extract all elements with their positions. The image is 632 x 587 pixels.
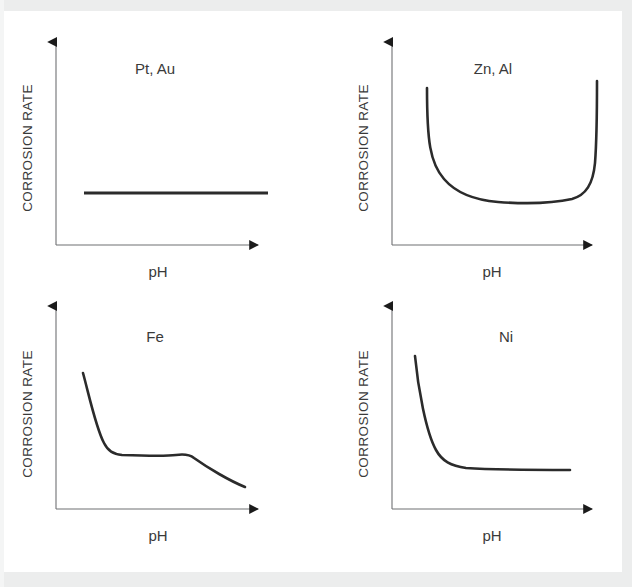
y-axis-label-pt-au: CORROSION RATE [20,84,35,212]
panel-title-fe: Fe [146,328,164,345]
x-axis-label-fe: pH [148,527,167,544]
curve-fe [83,373,245,487]
chart-panel-fe: Fe CORROSION RATE pH [0,292,316,572]
chart-grid: Pt, Au CORROSION RATE pH [0,11,632,572]
chart-svg-pt-au: Pt, Au CORROSION RATE pH [0,11,316,291]
x-axis-label-pt-au: pH [148,263,167,280]
panel-title-ni: Ni [499,328,513,345]
figure-page: Pt, Au CORROSION RATE pH [0,0,632,587]
page-scan-band-bottom [0,572,632,587]
x-axis-label-zn-al: pH [482,263,501,280]
y-axis-label-zn-al: CORROSION RATE [356,84,371,212]
chart-panel-zn-al: Zn, Al CORROSION RATE pH [316,11,632,291]
curve-zn-al [427,81,597,203]
chart-svg-fe: Fe CORROSION RATE pH [0,292,316,572]
chart-svg-ni: Ni CORROSION RATE pH [316,292,632,572]
plot-area-ni [415,356,570,470]
plot-area-zn-al [427,81,597,203]
chart-panel-pt-au: Pt, Au CORROSION RATE pH [0,11,316,291]
y-axis-label-ni: CORROSION RATE [356,350,371,478]
page-scan-band-top [0,0,632,11]
panel-title-zn-al: Zn, Al [474,60,512,77]
chart-panel-ni: Ni CORROSION RATE pH [316,292,632,572]
curve-ni [415,356,570,470]
y-axis-label-fe: CORROSION RATE [20,350,35,478]
chart-svg-zn-al: Zn, Al CORROSION RATE pH [316,11,632,291]
plot-area-fe [83,373,245,487]
x-axis-label-ni: pH [482,527,501,544]
panel-title-pt-au: Pt, Au [135,60,175,77]
